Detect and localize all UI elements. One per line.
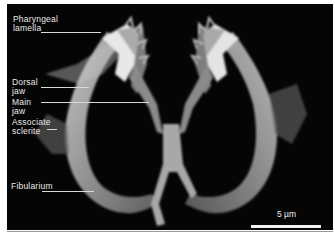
scale-bar [251, 225, 321, 228]
image-bottom-border [7, 231, 333, 232]
leader-line-associate-sclerite [47, 129, 57, 130]
label-fibularium: Fibularium [11, 182, 53, 191]
scale-bar-label: 5 µm [277, 209, 296, 219]
label-associate-sclerite: Associate sclerite [12, 118, 51, 135]
jaw-structure-illustration [7, 4, 333, 230]
leader-line-fibularium [42, 191, 94, 192]
micrograph-image: Pharyngeal lamella Dorsal jaw Main jaw A… [7, 4, 333, 230]
leader-line-pharyngeal-lamella [41, 32, 101, 33]
label-dorsal-jaw: Dorsal jaw [12, 78, 38, 95]
leader-line-dorsal-jaw [41, 87, 89, 88]
leader-line-main-jaw [41, 102, 149, 103]
label-main-jaw: Main jaw [12, 98, 31, 115]
label-pharyngeal-lamella: Pharyngeal lamella [13, 15, 58, 32]
